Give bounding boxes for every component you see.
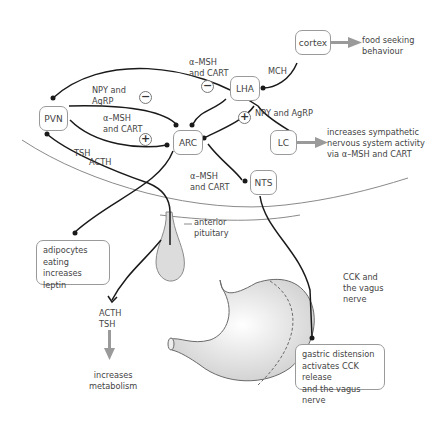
node-cortex: cortex xyxy=(295,30,331,55)
label-npy-agrp-left: NPY and AgRP xyxy=(92,85,126,107)
excite-sign-right: + xyxy=(238,111,251,124)
label-acth-tsh: ACTH TSH xyxy=(99,308,121,330)
label-msh-cart-left: α–MSH and CART xyxy=(103,113,142,135)
label-npy-agrp-right: NPY and AgRP xyxy=(255,108,313,119)
node-lha-label: LHA xyxy=(236,84,254,94)
label-anterior-pituitary: anterior pituitary xyxy=(194,217,229,239)
label-msh-cart-top: α–MSH and CART xyxy=(189,57,228,79)
hypothalamic-appetite-regulation-diagram: cortex LHA PVN ARC LC NTS food seeking b… xyxy=(0,0,429,422)
excite-sign-left: + xyxy=(139,133,152,146)
label-mch: MCH xyxy=(268,66,287,77)
node-arc-label: ARC xyxy=(179,138,197,148)
node-arc: ARC xyxy=(173,130,203,155)
box-gastric-distension: gastric distension activates CCK release… xyxy=(295,344,385,390)
label-food-seeking-behaviour: food seeking behaviour xyxy=(362,35,414,57)
node-lc: LC xyxy=(270,130,297,155)
node-cortex-label: cortex xyxy=(299,38,327,48)
inhibit-sign-left: − xyxy=(139,91,152,104)
label-cck-vagus-nerve: CCK and the vagus nerve xyxy=(343,272,384,305)
label-acth: ACTH xyxy=(89,157,111,168)
label-msh-cart-nts: α–MSH and CART xyxy=(190,171,229,193)
node-lc-label: LC xyxy=(278,138,289,148)
node-pvn-label: PVN xyxy=(44,114,62,124)
node-lha: LHA xyxy=(230,76,260,101)
inhibit-sign-top: − xyxy=(201,80,214,93)
box-adipocytes: adipocytes eating increases leptin xyxy=(36,240,110,285)
node-nts: NTS xyxy=(250,170,277,195)
label-sympathetic-activity: increases sympathetic nervous system act… xyxy=(327,127,425,160)
stomach-shape xyxy=(170,279,314,380)
label-tsh: TSH xyxy=(74,148,90,159)
label-increases-metabolism: increases metabolism xyxy=(89,370,137,392)
node-pvn: PVN xyxy=(39,106,68,131)
node-nts-label: NTS xyxy=(255,178,273,188)
